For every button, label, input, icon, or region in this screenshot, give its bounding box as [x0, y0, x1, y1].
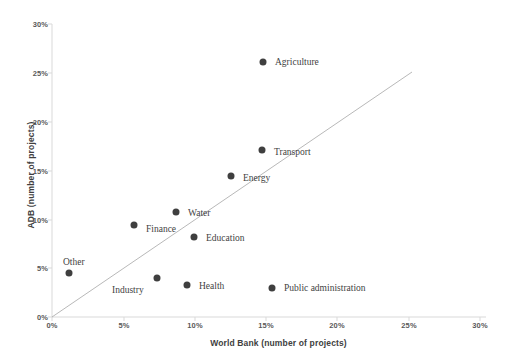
data-point-other[interactable] — [66, 270, 73, 277]
data-label-industry: Industry — [112, 285, 144, 295]
x-axis-title: World Bank (number of projects) — [0, 338, 505, 348]
parity-reference-line — [52, 72, 412, 317]
y-axis-ticks — [48, 24, 52, 317]
y-tick-label-25: 25% — [22, 69, 48, 78]
y-axis-title: ADB (number of projects) — [26, 80, 36, 270]
x-tick-label-10: 10% — [187, 321, 202, 330]
data-label-agriculture: Agriculture — [275, 57, 319, 67]
x-tick-label-15: 15% — [258, 321, 273, 330]
data-point-public-administration[interactable] — [269, 285, 276, 292]
x-tick-label-30: 30% — [472, 321, 487, 330]
data-label-finance: Finance — [146, 224, 176, 234]
x-tick-label-25: 25% — [401, 321, 416, 330]
data-label-energy: Energy — [243, 173, 270, 183]
data-point-health[interactable] — [184, 282, 191, 289]
data-point-energy[interactable] — [228, 173, 235, 180]
x-tick-label-0: 0% — [46, 321, 57, 330]
data-label-other: Other — [63, 257, 85, 267]
data-point-finance[interactable] — [131, 222, 138, 229]
scatter-chart: 30% 25% 20% 15% 10% 5% 0% 0% 5% 10% 15% … — [0, 0, 505, 364]
data-label-water: Water — [188, 208, 210, 218]
data-point-transport[interactable] — [259, 147, 266, 154]
data-point-education[interactable] — [191, 234, 198, 241]
data-point-agriculture[interactable] — [260, 59, 267, 66]
data-label-education: Education — [206, 233, 245, 243]
y-tick-label-0: 0% — [22, 313, 48, 322]
x-tick-label-5: 5% — [118, 321, 129, 330]
y-tick-label-30: 30% — [22, 20, 48, 29]
data-point-industry[interactable] — [154, 275, 161, 282]
data-point-water[interactable] — [173, 209, 180, 216]
data-label-health: Health — [199, 281, 224, 291]
data-label-transport: Transport — [274, 147, 311, 157]
x-tick-label-20: 20% — [329, 321, 344, 330]
data-label-public-administration: Public administration — [284, 283, 366, 293]
